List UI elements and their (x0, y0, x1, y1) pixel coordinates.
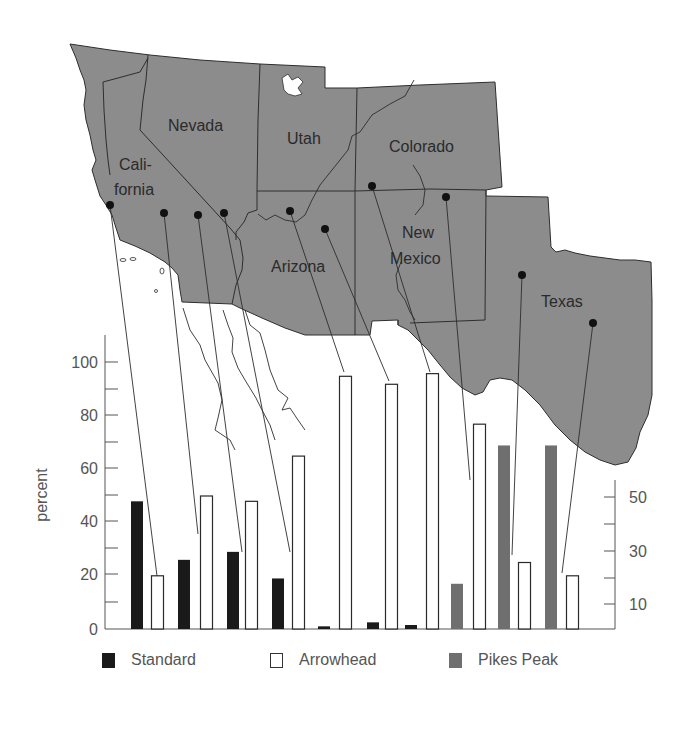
right-axis (604, 480, 615, 629)
tick-100: 100 (71, 354, 98, 371)
bar-arrowhead (246, 501, 258, 629)
site-dot (321, 225, 329, 233)
bar-standard (227, 552, 239, 629)
label-nevada: Nevada (168, 117, 223, 134)
legend-label-pikes-peak: Pikes Peak (478, 651, 558, 669)
bar-pikes-peak (498, 445, 510, 629)
site-dot (518, 271, 526, 279)
right-tick-30: 30 (629, 543, 647, 560)
label-california-2: fornia (114, 181, 154, 198)
bar-standard (131, 501, 143, 629)
bar-arrowhead (474, 424, 486, 629)
bar-pikes-peak (545, 445, 557, 629)
left-axis-tick-labels: 0 20 40 60 80 100 (71, 354, 98, 638)
legend-label-standard: Standard (131, 651, 196, 669)
legend-item-standard: Standard (102, 648, 196, 672)
y-axis-title: percent (33, 468, 50, 522)
bar-arrowhead (340, 376, 352, 629)
map-land (70, 44, 652, 465)
label-utah: Utah (287, 130, 321, 147)
site-dot (160, 209, 168, 217)
site-dot (589, 319, 597, 327)
bar-standard (318, 626, 330, 629)
label-new-mexico-2: Mexico (390, 250, 441, 267)
right-tick-10: 10 (629, 596, 647, 613)
label-texas: Texas (541, 293, 583, 310)
bar-pikes-peak (451, 584, 463, 629)
bar-arrowhead (201, 496, 213, 629)
label-arizona: Arizona (271, 258, 325, 275)
label-colorado: Colorado (389, 138, 454, 155)
tick-0: 0 (89, 621, 98, 638)
label-new-mexico-1: New (402, 224, 434, 241)
site-dot (194, 211, 202, 219)
bar-arrowhead (152, 576, 164, 629)
bar-arrowhead (293, 456, 305, 629)
channel-islands (120, 258, 164, 293)
bar-arrowhead (519, 563, 531, 630)
southwest-map: Nevada Utah Colorado Cali- fornia Arizon… (70, 44, 652, 465)
bar-standard (272, 578, 284, 629)
site-dot (220, 209, 228, 217)
map-bar-chart-figure: Nevada Utah Colorado Cali- fornia Arizon… (0, 0, 698, 737)
swatch-standard (102, 653, 115, 668)
site-dot (442, 193, 450, 201)
right-axis-tick-labels: 10 30 50 (629, 489, 647, 613)
bar-standard (178, 560, 190, 629)
bar-arrowhead (567, 576, 579, 629)
tick-40: 40 (80, 513, 98, 530)
label-california-1: Cali- (119, 156, 152, 173)
bar-standard (405, 625, 417, 629)
bar-standard (367, 622, 379, 629)
bar-arrowhead (427, 374, 439, 629)
right-tick-50: 50 (629, 489, 647, 506)
tick-80: 80 (80, 407, 98, 424)
swatch-pikes-peak (449, 653, 462, 668)
tick-60: 60 (80, 460, 98, 477)
bar-series (131, 374, 579, 629)
tick-20: 20 (80, 566, 98, 583)
legend-label-arrowhead: Arrowhead (299, 651, 376, 669)
swatch-arrowhead (270, 653, 283, 668)
legend: Standard Arrowhead Pikes Peak (0, 648, 698, 678)
site-dot (286, 207, 294, 215)
legend-item-pikes-peak: Pikes Peak (449, 648, 558, 672)
bar-arrowhead (386, 384, 398, 629)
legend-item-arrowhead: Arrowhead (270, 648, 376, 672)
site-dot (106, 201, 114, 209)
site-dot (368, 182, 376, 190)
